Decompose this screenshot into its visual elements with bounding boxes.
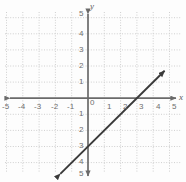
- x-tick-label-neg1: -1: [67, 103, 74, 111]
- y-tick-label-neg5: 5: [79, 170, 83, 178]
- y-tick-label-4: 4: [79, 30, 83, 38]
- x-axis-label: x: [179, 93, 183, 102]
- y-tick-label-2: 2: [79, 62, 83, 70]
- x-tick-label-neg4: -4: [18, 103, 25, 111]
- y-tick-label-3: 3: [79, 46, 83, 54]
- x-tick-label-neg5: -5: [2, 103, 9, 111]
- y-tick-label-neg1: 1: [79, 110, 83, 118]
- y-tick-label-neg3: 3: [79, 142, 83, 150]
- x-tick-label-2: 2: [123, 103, 127, 111]
- x-tick-label-1: 1: [107, 103, 111, 111]
- x-tick-label-4: 4: [156, 103, 160, 111]
- y-tick-label-5: 5: [79, 10, 83, 18]
- graph-screenshot: -5 -4 -3 -2 -1 0 1 2 3 4 5 5 4 3 2 1 1 2…: [0, 0, 186, 182]
- y-tick-label-neg4: 4: [79, 158, 83, 166]
- origin-label: 0: [90, 99, 94, 107]
- x-tick-label-neg3: -3: [34, 103, 41, 111]
- x-tick-label-5: 5: [172, 103, 176, 111]
- coordinate-plane: [0, 0, 186, 182]
- y-tick-label-neg2: 2: [79, 126, 83, 134]
- y-tick-label-1: 1: [79, 78, 83, 86]
- y-axis-label: y: [90, 2, 94, 11]
- x-tick-label-3: 3: [139, 103, 143, 111]
- plotted-line: [60, 71, 164, 174]
- x-tick-label-neg2: -2: [51, 103, 58, 111]
